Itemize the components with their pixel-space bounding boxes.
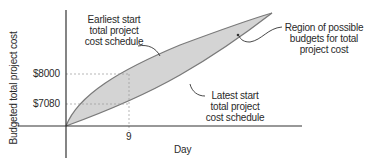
- region-line-2: budgets for total: [283, 33, 365, 44]
- region-leader-dot: [237, 34, 240, 37]
- y-axis-label: Budgeted total project cost: [8, 31, 19, 144]
- x-axis-label: Day: [174, 144, 191, 155]
- latest-line-3: cost schedule: [205, 112, 265, 123]
- region-line-1: Region of possible: [283, 22, 365, 33]
- latest-line-1: Latest start: [205, 90, 265, 101]
- earliest-start-annotation: Earliest start total project cost schedu…: [78, 14, 150, 47]
- earliest-line-2: total project: [78, 25, 150, 36]
- latest-line-2: total project: [205, 101, 265, 112]
- earliest-line-1: Earliest start: [78, 14, 150, 25]
- earliest-leader: [138, 45, 160, 56]
- region-line-3: project cost: [283, 44, 365, 55]
- y-tick-8000: $8000: [33, 68, 60, 79]
- latest-leader: [190, 84, 205, 96]
- latest-start-annotation: Latest start total project cost schedule: [205, 90, 265, 123]
- earliest-line-3: cost schedule: [78, 36, 150, 47]
- region-annotation: Region of possible budgets for total pro…: [283, 22, 365, 55]
- y-tick-7080: $7080: [33, 98, 60, 109]
- x-tick-9: 9: [126, 131, 131, 142]
